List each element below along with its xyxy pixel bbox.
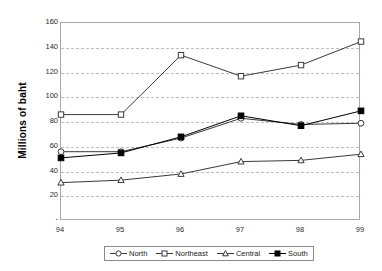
series-central — [61, 154, 361, 182]
data-point — [118, 112, 123, 117]
legend-entry-central: Central — [217, 249, 260, 258]
legend-entry-north: North — [110, 249, 147, 258]
y-tick-80: 80 — [28, 117, 58, 125]
series-layer — [61, 23, 361, 221]
data-point — [298, 123, 304, 129]
filled-square-marker-icon — [269, 249, 286, 258]
y-tick-40: 40 — [28, 167, 58, 175]
y-tick-120: 120 — [28, 68, 58, 76]
markers-northeast — [58, 39, 363, 117]
y-tick-20: 20 — [28, 191, 58, 199]
series-north — [61, 118, 361, 151]
data-point — [358, 151, 364, 157]
data-point — [118, 150, 124, 156]
y-tick-160: 160 — [28, 18, 58, 26]
y-tick-100: 100 — [28, 92, 58, 100]
data-point — [358, 120, 364, 126]
data-point — [238, 74, 243, 79]
data-point — [58, 112, 63, 117]
legend-entry-south: South — [269, 249, 308, 258]
plot-area — [60, 22, 360, 220]
y-tick-140: 140 — [28, 43, 58, 51]
x-tick-99: 99 — [347, 225, 373, 234]
y-tick-60: 60 — [28, 142, 58, 150]
data-point — [298, 62, 303, 67]
open-triangle-marker-icon — [217, 249, 234, 258]
x-tick-95: 95 — [107, 225, 133, 234]
legend-label-northeast: Northeast — [175, 249, 208, 258]
series-south — [61, 111, 361, 158]
x-tick-98: 98 — [287, 225, 313, 234]
x-tick-96: 96 — [167, 225, 193, 234]
open-square-marker-icon — [156, 249, 173, 258]
data-point — [358, 39, 363, 44]
data-point — [358, 108, 364, 114]
data-point — [178, 52, 183, 57]
x-tick-94: 94 — [47, 225, 73, 234]
x-tick-97: 97 — [227, 225, 253, 234]
data-point — [58, 149, 64, 155]
data-point — [178, 134, 184, 140]
chart-legend: North Northeast Central South — [104, 246, 314, 261]
legend-label-central: Central — [236, 249, 260, 258]
legend-entry-northeast: Northeast — [156, 249, 208, 258]
open-circle-marker-icon — [110, 249, 127, 258]
legend-label-south: South — [288, 249, 308, 258]
data-point — [58, 155, 64, 161]
markers-south — [58, 108, 364, 161]
series-northeast — [61, 42, 361, 115]
legend-label-north: North — [129, 249, 147, 258]
y-tick-0: - — [28, 215, 58, 223]
data-point — [238, 113, 244, 119]
line-chart: Millions of baht 160 140 120 100 80 60 4… — [0, 0, 382, 271]
y-axis-tick-labels: 160 140 120 100 80 60 40 20 - — [26, 0, 58, 240]
